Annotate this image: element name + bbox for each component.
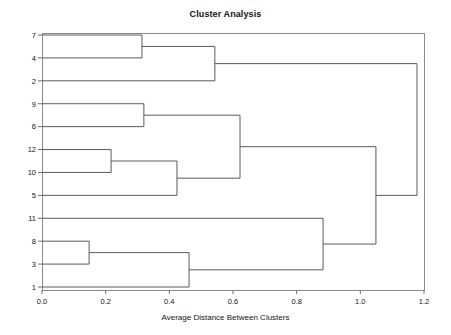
leaf-label: 3	[32, 260, 36, 269]
leaf-label: 6	[32, 122, 36, 131]
dendrogram-link	[42, 150, 111, 173]
dendrogram-link	[42, 241, 89, 264]
dendrogram-link	[42, 161, 177, 195]
dendrogram-links	[42, 35, 417, 287]
plot-border	[43, 34, 425, 291]
leaf-label: 9	[32, 100, 36, 109]
x-tick-label: 0.0	[37, 297, 47, 306]
x-axis-title: Average Distance Between Clusters	[0, 313, 451, 322]
y-axis-leaf-labels: 742961210511831	[28, 31, 42, 292]
x-tick-label: 0.8	[291, 297, 301, 306]
dendrogram-plot: 0.00.20.40.60.81.01.2 742961210511831	[0, 0, 451, 335]
dendrogram-link	[42, 253, 189, 287]
plot-frame	[43, 34, 425, 291]
x-axis-ticks: 0.00.20.40.60.81.01.2	[37, 290, 429, 306]
leaf-label: 4	[32, 54, 36, 63]
dendrogram-link	[42, 35, 142, 58]
leaf-label: 2	[32, 77, 36, 86]
cluster-analysis-chart: Cluster Analysis 0.00.20.40.60.81.01.2 7…	[0, 0, 451, 335]
dendrogram-link	[144, 115, 240, 178]
leaf-label: 10	[28, 168, 36, 177]
dendrogram-link	[240, 147, 376, 244]
leaf-label: 11	[28, 214, 36, 223]
leaf-label: 1	[32, 283, 36, 292]
x-tick-label: 0.4	[164, 297, 174, 306]
x-tick-label: 0.2	[100, 297, 110, 306]
leaf-label: 8	[32, 237, 36, 246]
dendrogram-link	[215, 64, 417, 196]
dendrogram-link	[42, 218, 323, 270]
x-tick-label: 1.2	[419, 297, 429, 306]
leaf-label: 5	[32, 191, 36, 200]
x-tick-label: 1.0	[355, 297, 365, 306]
dendrogram-link	[42, 46, 215, 80]
leaf-label: 12	[28, 145, 36, 154]
x-tick-label: 0.6	[228, 297, 238, 306]
dendrogram-link	[42, 104, 144, 127]
leaf-label: 7	[32, 31, 36, 40]
